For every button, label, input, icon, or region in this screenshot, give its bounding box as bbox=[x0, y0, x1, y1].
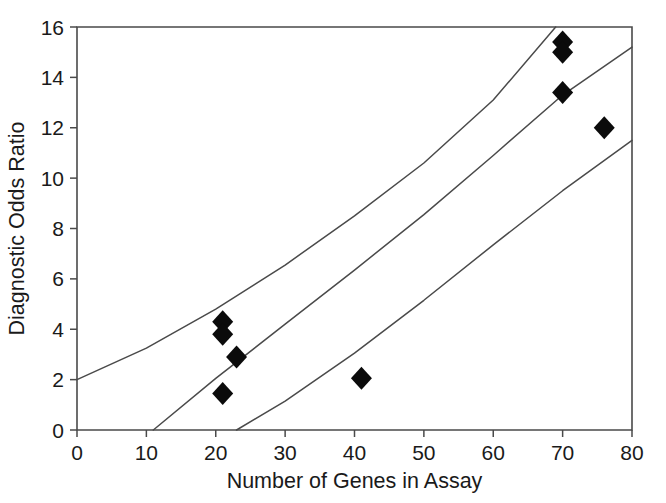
x-tick-label: 10 bbox=[135, 441, 158, 464]
trend-line bbox=[77, 27, 556, 380]
plot-frame bbox=[77, 27, 632, 430]
y-tick-label: 12 bbox=[41, 116, 64, 139]
axes bbox=[70, 27, 632, 437]
trend-curves bbox=[77, 27, 632, 430]
axis-labels: 024681012141601020304050607080Number of … bbox=[5, 16, 644, 494]
trend-line bbox=[237, 140, 632, 430]
y-tick-label: 6 bbox=[52, 267, 64, 290]
y-tick-label: 14 bbox=[41, 66, 65, 89]
x-tick-label: 50 bbox=[412, 441, 435, 464]
y-tick-label: 10 bbox=[41, 167, 64, 190]
data-point-marker bbox=[226, 345, 247, 368]
y-tick-label: 0 bbox=[52, 419, 64, 442]
data-points bbox=[212, 31, 615, 405]
x-tick-label: 30 bbox=[273, 441, 296, 464]
x-tick-label: 60 bbox=[482, 441, 505, 464]
x-axis-title: Number of Genes in Assay bbox=[227, 469, 483, 493]
x-tick-label: 0 bbox=[71, 441, 83, 464]
x-tick-label: 40 bbox=[343, 441, 366, 464]
y-tick-label: 16 bbox=[41, 16, 64, 39]
scatter-plot: 024681012141601020304050607080Number of … bbox=[0, 0, 666, 503]
x-tick-label: 80 bbox=[620, 441, 643, 464]
y-tick-label: 2 bbox=[52, 368, 64, 391]
trend-line bbox=[153, 47, 632, 430]
x-tick-label: 20 bbox=[204, 441, 227, 464]
data-point-marker bbox=[351, 367, 372, 390]
y-axis-title: Diagnostic Odds Ratio bbox=[5, 122, 29, 336]
y-tick-label: 8 bbox=[52, 217, 64, 240]
data-point-marker bbox=[212, 382, 233, 405]
chart-page: 024681012141601020304050607080Number of … bbox=[0, 0, 666, 503]
y-tick-label: 4 bbox=[52, 318, 64, 341]
x-tick-label: 70 bbox=[551, 441, 574, 464]
data-point-marker bbox=[594, 116, 615, 139]
data-point-marker bbox=[212, 323, 233, 346]
